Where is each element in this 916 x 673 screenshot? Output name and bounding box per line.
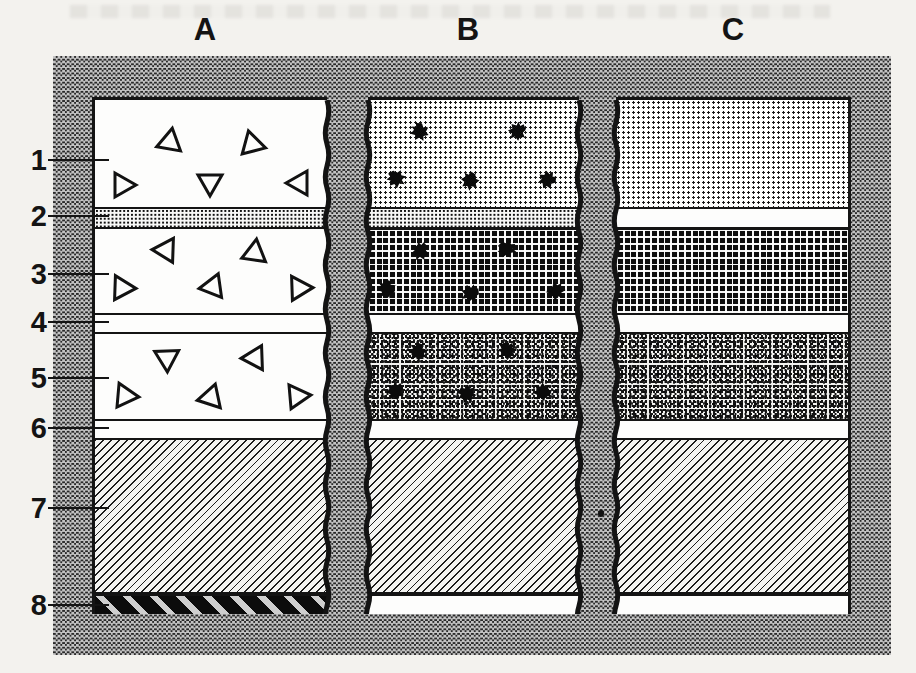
layer-marker-4: 4 <box>14 306 109 338</box>
column-b-layer-7-hatch <box>368 438 579 594</box>
triangle-fossil-icon <box>193 383 223 417</box>
triangle-fossil-icon <box>195 272 225 306</box>
column-c-layer-6-plain <box>616 419 848 438</box>
fossil-blob-icon <box>498 240 517 263</box>
torn-edge-line <box>362 100 374 614</box>
triangle-fossil-icon <box>148 235 178 269</box>
leader-line-8 <box>48 604 109 607</box>
column-b-layer-8-plain <box>368 594 579 614</box>
leader-line-7 <box>48 507 109 510</box>
column-label-a: A <box>194 12 216 48</box>
column-label-b: B <box>457 12 479 48</box>
fossil-blob-icon <box>532 382 551 405</box>
fossil-blob-icon <box>458 385 477 408</box>
column-c-layer-5-speckle <box>616 332 848 419</box>
fossil-blob-icon <box>460 172 479 195</box>
layer-number-6: 6 <box>14 414 46 443</box>
triangle-fossil-icon <box>240 130 270 164</box>
column-a-layer-4-plain <box>95 313 327 332</box>
column-b-layer-4-plain <box>368 313 579 332</box>
triangle-fossil-icon <box>240 235 270 269</box>
fossil-blob-icon <box>537 170 556 193</box>
layer-marker-1: 1 <box>14 144 109 176</box>
layer-number-7: 7 <box>14 494 46 523</box>
fossil-blob-icon <box>547 282 566 305</box>
fossil-blob-icon <box>507 122 526 145</box>
leader-line-5 <box>48 377 109 380</box>
column-c-layer-4-plain <box>616 313 848 332</box>
layer-number-3: 3 <box>14 260 46 289</box>
print-bleedthrough-ghost <box>70 5 830 18</box>
column-b-layer-2-dense-dots <box>368 207 579 227</box>
leader-line-4 <box>48 321 109 324</box>
layer-number-8: 8 <box>14 591 46 620</box>
triangle-fossil-icon <box>282 168 312 202</box>
column-label-c: C <box>722 12 744 48</box>
figure-page: A B C 1 2 3 4 5 6 7 8 <box>0 0 916 673</box>
fossil-blob-icon <box>385 382 404 405</box>
triangle-fossil-icon <box>287 273 317 307</box>
column-c-layer-3-grid <box>616 227 848 313</box>
column-c-layer-1-fine-dots <box>616 100 848 207</box>
layer-marker-6: 6 <box>14 412 109 444</box>
fossil-blob-icon <box>410 242 429 265</box>
fossil-blob-icon <box>387 170 406 193</box>
leader-line-2 <box>48 215 109 218</box>
fossil-blob-icon <box>410 123 429 146</box>
leader-line-6 <box>48 427 109 430</box>
layer-number-1: 1 <box>14 146 46 175</box>
fossil-blob-icon <box>498 342 517 365</box>
layer-marker-2: 2 <box>14 200 109 232</box>
stratigraphic-column-a <box>92 97 327 614</box>
layer-marker-5: 5 <box>14 362 109 394</box>
triangle-fossil-icon <box>110 170 140 204</box>
triangle-fossil-icon <box>237 343 267 377</box>
torn-edge-line <box>610 100 622 614</box>
triangle-fossil-icon <box>195 170 225 204</box>
fossil-blob-icon <box>408 343 427 366</box>
column-a-layer-2-dense-dots <box>95 207 327 227</box>
layer-number-5: 5 <box>14 364 46 393</box>
column-b-layer-6-plain <box>368 419 579 438</box>
leader-line-1 <box>48 159 109 162</box>
triangle-fossil-icon <box>152 128 182 162</box>
column-c-layer-7-hatch <box>616 438 848 594</box>
column-a-layer-7-hatch <box>95 438 327 594</box>
fossil-blob-icon <box>460 284 479 307</box>
stratigraphic-column-c <box>616 97 851 614</box>
layer-number-4: 4 <box>14 308 46 337</box>
column-c-layer-2-plain <box>616 207 848 227</box>
triangle-fossil-icon <box>285 381 315 415</box>
triangle-fossil-icon <box>152 346 182 380</box>
column-c-layer-8-plain <box>616 594 848 614</box>
torn-edge-line <box>321 100 333 614</box>
layer-number-2: 2 <box>14 202 46 231</box>
leader-line-3 <box>48 273 109 276</box>
column-a-layer-6-plain <box>95 419 327 438</box>
column-a-layer-8-black-stripe <box>95 594 327 614</box>
fossil-blob-icon <box>377 280 396 303</box>
triangle-fossil-icon <box>110 273 140 307</box>
stratigraphic-column-b <box>368 97 579 614</box>
layer-marker-3: 3 <box>14 258 109 290</box>
layer-marker-8: 8 <box>14 589 109 621</box>
torn-edge-line <box>573 100 585 614</box>
layer-marker-7: 7 <box>14 492 109 524</box>
triangle-fossil-icon <box>113 381 143 415</box>
